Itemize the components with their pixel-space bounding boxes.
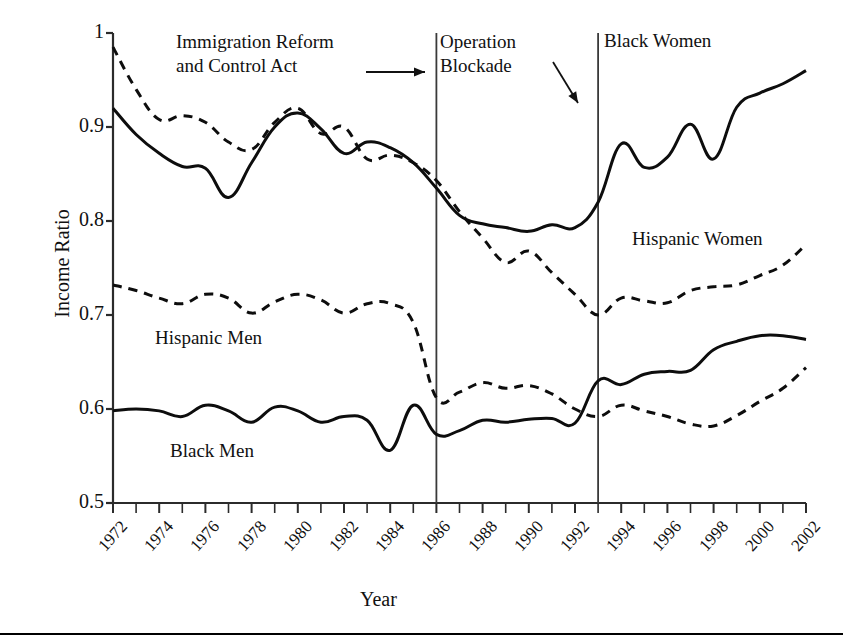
y-tick-label: 0.6 [46, 396, 104, 419]
y-tick-label: 0.9 [46, 114, 104, 137]
series-line-hispanic-women [113, 47, 806, 315]
y-tick-label: 0.5 [46, 490, 104, 513]
series-label-black-men: Black Men [170, 440, 254, 462]
figure-bottom-rule [0, 633, 843, 635]
y-tick-label: 1 [46, 20, 104, 43]
x-axis-title: Year [360, 588, 397, 611]
y-axis-title: Income Ratio [51, 174, 74, 354]
series-label-hispanic-men: Hispanic Men [155, 327, 262, 349]
chart-figure: 0.50.60.70.80.91 19721974197619781980198… [0, 0, 843, 640]
annotation-blockade-line2: Blockade [440, 54, 512, 77]
annotation-irca-line1: Immigration Reform [176, 30, 334, 53]
arrow-operation-blockade [553, 62, 578, 103]
annotation-irca-line2: and Control Act [176, 54, 297, 77]
series-line-black-women [113, 71, 806, 232]
series-label-black-women: Black Women [604, 30, 711, 52]
annotation-blockade-line1: Operation [440, 30, 516, 53]
series-label-hispanic-women: Hispanic Women [632, 228, 763, 250]
event-lines [436, 33, 598, 503]
arrow-irca [366, 67, 425, 76]
